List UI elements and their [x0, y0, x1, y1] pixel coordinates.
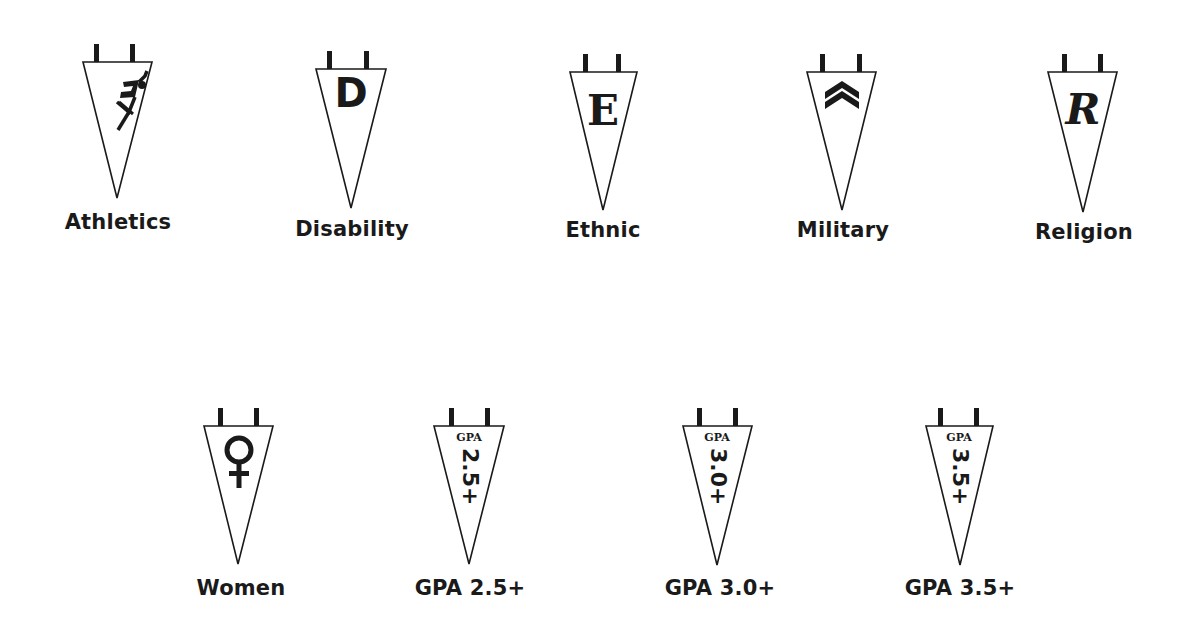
pennant-label: Ethnic: [523, 218, 683, 242]
pennant-ethnic: E Ethnic: [523, 52, 683, 252]
pennant-label: GPA 3.0+: [640, 576, 800, 600]
svg-text:GPA: GPA: [946, 431, 972, 444]
pennant-gpa-3-0: GPA 3.0+ GPA 3.0+: [638, 406, 798, 606]
svg-text:2.5+: 2.5+: [458, 448, 483, 505]
pennant-gpa-3-5: GPA 3.5+ GPA 3.5+: [880, 406, 1040, 606]
pennant-label: Military: [763, 218, 923, 242]
gpa-icon: GPA 3.0+: [704, 431, 731, 505]
letter-e-icon: E: [587, 86, 619, 135]
runner-icon: [37, 42, 197, 212]
pennant-gpa-2-5: GPA 2.5+ GPA 2.5+: [389, 406, 549, 606]
pennant-religion: R Religion: [1003, 52, 1163, 252]
pennant-label: Women: [161, 576, 321, 600]
letter-d-icon: D: [334, 70, 367, 116]
pennant-military: Military: [762, 52, 922, 252]
pennant-disability: D Disability: [271, 49, 431, 249]
pennant-label: Religion: [1004, 220, 1164, 244]
letter-r-icon: R: [1065, 85, 1101, 134]
pennant-athletics: Athletics: [37, 42, 197, 242]
pennant-women: Women: [158, 406, 318, 606]
svg-text:3.5+: 3.5+: [948, 448, 973, 505]
svg-text:GPA: GPA: [704, 431, 730, 444]
pennant-label: Disability: [272, 217, 432, 241]
gpa-icon: GPA 2.5+: [456, 431, 483, 505]
svg-text:GPA: GPA: [456, 431, 482, 444]
pennant-label: Athletics: [38, 210, 198, 234]
svg-text:3.0+: 3.0+: [706, 448, 731, 505]
pennant-label: GPA 2.5+: [390, 576, 550, 600]
pennant-label: GPA 3.5+: [880, 576, 1040, 600]
gpa-icon: GPA 3.5+: [946, 431, 973, 505]
